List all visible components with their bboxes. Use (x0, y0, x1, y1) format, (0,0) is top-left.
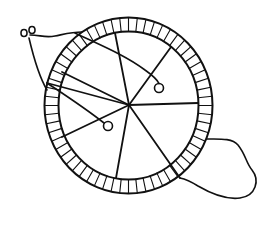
ring-segment-divider (56, 143, 68, 150)
spoke-lower-right (129, 105, 180, 178)
ring-segment-divider (61, 149, 72, 157)
ring-segment-divider (66, 47, 76, 56)
ring-segment-divider (157, 25, 163, 38)
loop-a-icon (21, 30, 27, 37)
ring-segment-divider (192, 70, 205, 76)
ring-segment-divider (164, 170, 171, 182)
ring-segment-divider (195, 128, 208, 132)
ring-segment-divider (94, 25, 100, 38)
ring-segment-divider (45, 96, 59, 97)
ring-segment-divider (164, 29, 171, 41)
ring-segment-divider (185, 149, 196, 157)
pin-right-icon (155, 84, 164, 93)
ring-segment-divider (185, 54, 196, 62)
ring-segment-divider (111, 19, 114, 33)
ring-segment-divider (72, 160, 81, 170)
spoke-top (115, 33, 129, 105)
spoke-right (129, 103, 198, 105)
ring-segment-divider (197, 121, 211, 124)
ring-segment-divider (143, 19, 146, 33)
ring-segment-divider (66, 155, 76, 164)
ring-segment-divider (120, 18, 121, 32)
ring-segment-divider (72, 40, 81, 50)
ring-segment-divider (49, 78, 62, 82)
figure-canvas (0, 0, 271, 231)
ring-segment-divider (195, 78, 208, 82)
ring-segment-divider (170, 34, 178, 45)
ring-segment-divider (198, 96, 212, 97)
ring-segment-divider (189, 62, 201, 69)
ring-segment-divider (150, 22, 154, 35)
ring-segment-divider (87, 170, 94, 182)
wheel-spokes (47, 33, 198, 178)
pins (104, 84, 164, 131)
ring-segment-divider (181, 155, 191, 164)
ring-segment-divider (143, 178, 146, 192)
ring-segment-divider (136, 179, 137, 193)
string-tail (180, 139, 256, 198)
ring-segment-divider (175, 40, 184, 50)
ring-segment-divider (56, 62, 68, 69)
ring-segment-divider (111, 178, 114, 192)
string-top-left (30, 32, 82, 37)
ring-segment-divider (46, 121, 60, 124)
ring-segment-divider (45, 113, 59, 114)
strings (29, 32, 256, 198)
ring-segment-divider (136, 18, 137, 32)
spoke-upper-right (129, 47, 171, 105)
ring-segment-divider (61, 54, 72, 62)
ring-segment-divider (198, 113, 212, 114)
ring-segment-divider (103, 22, 107, 35)
ring-segment-divider (49, 128, 62, 132)
ring-segment-divider (197, 87, 211, 90)
ring-segment-divider (170, 165, 178, 176)
wheel-drawing (0, 0, 271, 231)
ring-segment-divider (181, 47, 191, 56)
ring-segment-divider (150, 176, 154, 189)
pin-left-icon (104, 122, 113, 131)
ring-segment-divider (157, 173, 163, 186)
loop-b-icon (29, 27, 35, 34)
ring-segment-divider (192, 136, 205, 142)
ring-segment-divider (103, 176, 107, 189)
ring-segment-divider (94, 173, 100, 186)
spoke-lower-left (62, 105, 129, 137)
ring-segment-divider (175, 160, 184, 170)
ring-segment-divider (79, 165, 87, 176)
spoke-bottom (116, 105, 129, 178)
ring-segment-divider (120, 179, 121, 193)
string-left-drop (29, 38, 47, 90)
ring-segment-divider (189, 143, 201, 150)
